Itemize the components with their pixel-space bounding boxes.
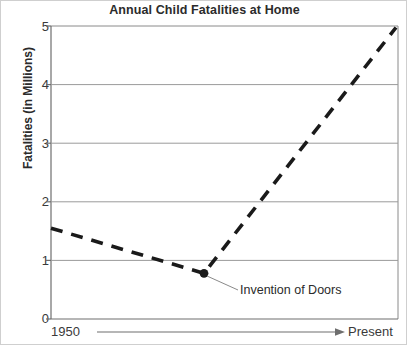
plot-area xyxy=(1,1,407,345)
x-axis-arrow-head-icon xyxy=(335,328,345,336)
annotation-invention-of-doors: Invention of Doors xyxy=(240,283,341,297)
x-axis-start-label: 1950 xyxy=(51,324,80,339)
chart-figure: Annual Child Fatalities at Home Fataliti… xyxy=(0,0,407,345)
x-axis-end-label: Present xyxy=(348,324,393,339)
annotation-leader-line xyxy=(207,276,238,290)
data-line-fatalities xyxy=(51,28,396,274)
